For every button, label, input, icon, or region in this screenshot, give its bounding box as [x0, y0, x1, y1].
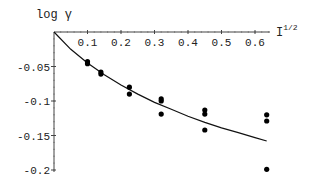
data-point	[85, 61, 90, 66]
data-point	[127, 92, 132, 97]
data-point	[98, 72, 103, 77]
y-tick-label: -0.15	[17, 131, 50, 143]
y-axis-title: log γ	[36, 8, 72, 22]
x-tick-label: 0.6	[245, 37, 265, 49]
x-tick-label: 0.1	[78, 37, 98, 49]
y-tick-label: -0.05	[17, 62, 50, 74]
chart: 0.10.20.30.40.50.6-0.05-0.1-0.15-0.2 log…	[0, 0, 320, 182]
y-tick-label: -0.1	[24, 96, 51, 108]
x-tick-label: 0.3	[145, 37, 165, 49]
data-point	[264, 118, 269, 123]
data-point	[264, 167, 269, 172]
data-points	[85, 59, 269, 172]
data-point	[202, 112, 207, 117]
x-tick-label: 0.2	[111, 37, 131, 49]
data-point	[159, 98, 164, 103]
x-tick-label: 0.5	[212, 37, 232, 49]
data-point	[264, 112, 269, 117]
x-tick-label: 0.4	[178, 37, 198, 49]
y-tick-label: -0.2	[24, 165, 50, 177]
axes: 0.10.20.30.40.50.6-0.05-0.1-0.15-0.2	[17, 30, 270, 177]
data-point	[202, 127, 207, 132]
data-point	[127, 85, 132, 90]
x-axis-title: I1/2	[276, 23, 298, 40]
data-point	[159, 112, 164, 117]
